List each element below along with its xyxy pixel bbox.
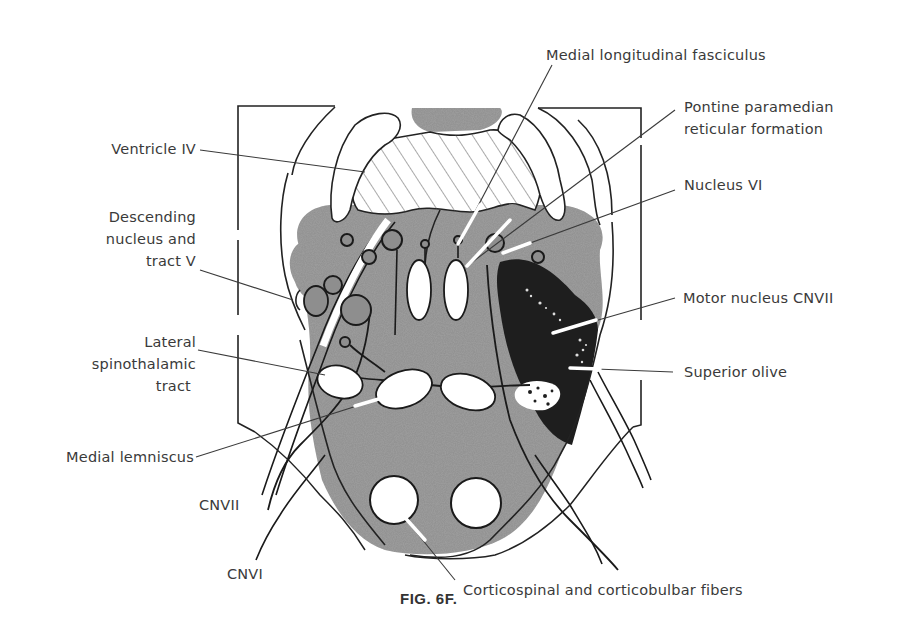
label-descending-nucleus: Descending nucleus and tract V bbox=[106, 206, 196, 272]
label-corticospinal: Corticospinal and corticobulbar fibers bbox=[463, 579, 743, 601]
figure-caption: FIG. 6F. bbox=[400, 590, 457, 607]
label-lateral-spinothalamic-line2: spinothalamic bbox=[92, 353, 196, 375]
cnvii-nerve-right bbox=[590, 372, 651, 488]
label-pprf-line1: Pontine paramedian bbox=[684, 96, 834, 118]
label-medial-longitudinal-fasciculus: Medial longitudinal fasciculus bbox=[546, 44, 766, 66]
label-lateral-spinothalamic-line3: tract bbox=[92, 375, 196, 397]
label-lateral-spinothalamic-line1: Lateral bbox=[92, 331, 196, 353]
label-descending-nucleus-line2: nucleus and bbox=[106, 228, 196, 250]
pons-cross-section-diagram bbox=[0, 0, 902, 631]
label-ventricle-iv: Ventricle IV bbox=[111, 138, 196, 160]
descending-nucleus-v bbox=[304, 286, 328, 316]
label-nucleus-vi: Nucleus VI bbox=[684, 174, 763, 196]
descending-tract-hook bbox=[296, 290, 300, 310]
label-lateral-spinothalamic: Lateral spinothalamic tract bbox=[92, 331, 196, 397]
label-descending-nucleus-line1: Descending bbox=[106, 206, 196, 228]
label-cnvi: CNVI bbox=[227, 563, 263, 585]
label-medial-lemniscus: Medial lemniscus bbox=[66, 446, 194, 468]
label-motor-nucleus-cnvii: Motor nucleus CNVII bbox=[683, 287, 833, 309]
label-pprf: Pontine paramedian reticular formation bbox=[684, 96, 834, 140]
label-pprf-line2: reticular formation bbox=[684, 118, 834, 140]
label-descending-nucleus-line3: tract V bbox=[106, 250, 196, 272]
label-superior-olive: Superior olive bbox=[684, 361, 787, 383]
label-cnvii: CNVII bbox=[199, 494, 239, 516]
